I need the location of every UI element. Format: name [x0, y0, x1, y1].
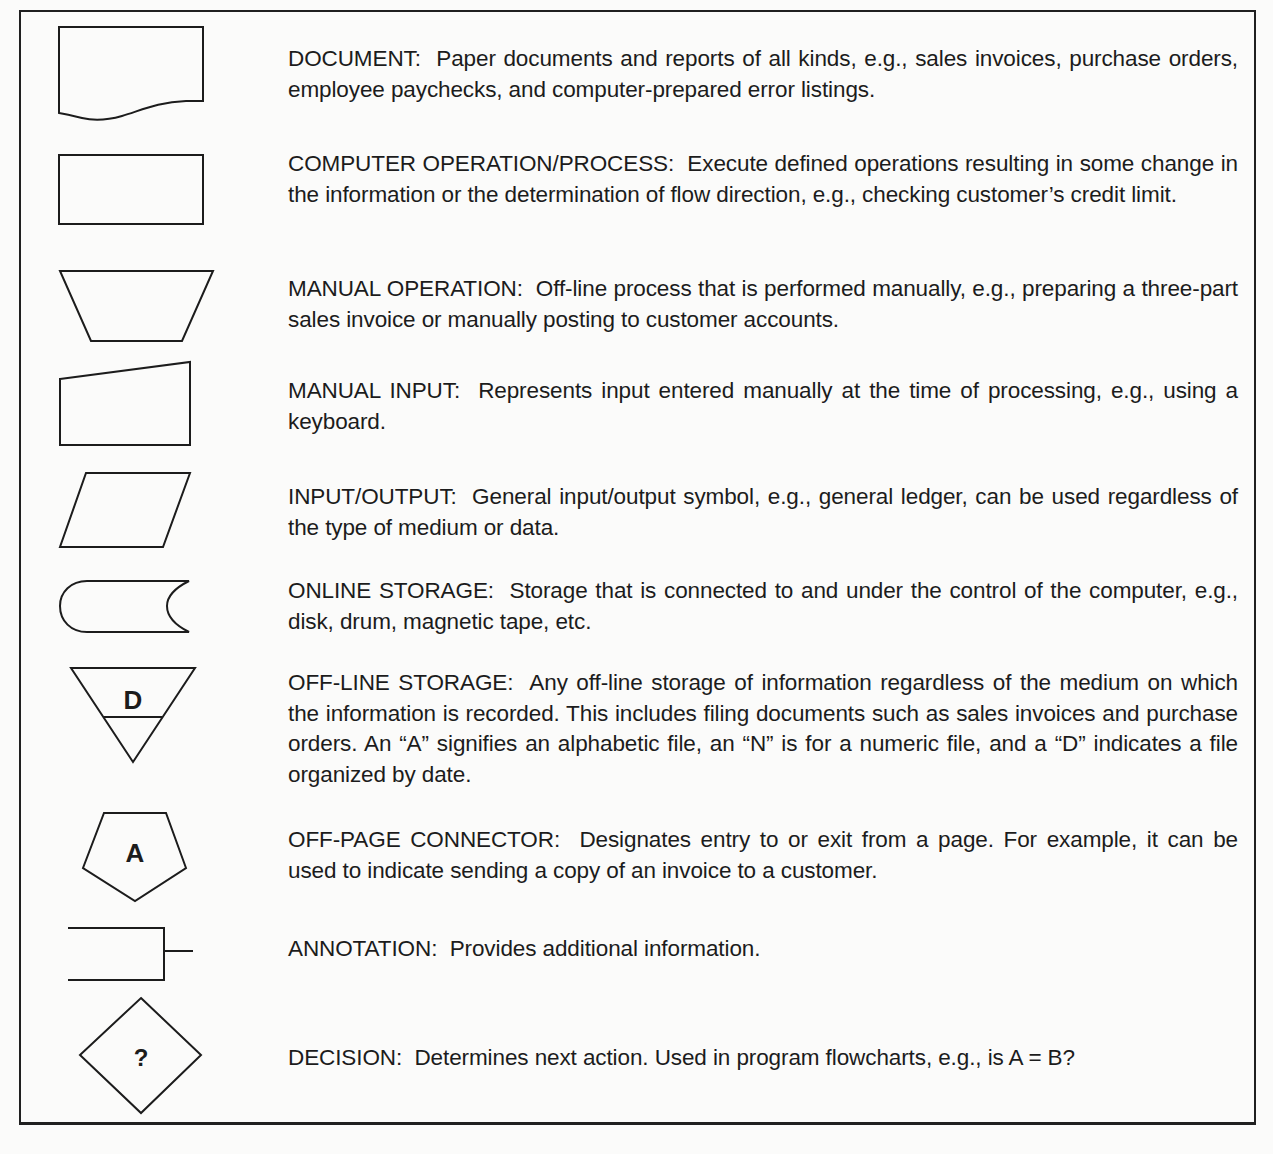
online-storage-symbol-icon [59, 580, 193, 634]
decision-symbol-icon: ? [79, 997, 203, 1115]
document-text: Paper documents and reports of all kinds… [288, 46, 1238, 102]
manual-input-term: MANUAL INPUT: [288, 378, 460, 403]
annotation-text: Provides additional information. [450, 936, 761, 961]
off-page-connector-glyph: A [126, 838, 145, 868]
offline-storage-description: OFF-LINE STORAGE: Any off-line storage o… [288, 668, 1238, 790]
manual-operation-symbol-icon [59, 270, 215, 344]
offline-storage-term: OFF-LINE STORAGE: [288, 670, 513, 695]
document-symbol-icon [58, 26, 206, 122]
manual-operation-term: MANUAL OPERATION: [288, 276, 523, 301]
document-description: DOCUMENT: Paper documents and reports of… [288, 44, 1238, 105]
offline-storage-glyph: D [124, 685, 143, 715]
decision-term: DECISION: [288, 1045, 402, 1070]
manual-input-symbol-icon [59, 361, 193, 447]
input-output-symbol-icon [59, 472, 193, 550]
input-output-term: INPUT/OUTPUT: [288, 484, 457, 509]
manual-input-description: MANUAL INPUT: Represents input entered m… [288, 376, 1238, 437]
offline-storage-symbol-icon: D [70, 667, 198, 765]
manual-operation-description: MANUAL OPERATION: Off-line process that … [288, 274, 1238, 335]
annotation-symbol-icon [67, 927, 195, 983]
off-page-connector-symbol-icon: A [82, 812, 188, 904]
online-storage-description: ONLINE STORAGE: Storage that is connecte… [288, 576, 1238, 637]
decision-text: Determines next action. Used in program … [414, 1045, 1075, 1070]
decision-description: DECISION: Determines next action. Used i… [288, 1043, 1238, 1074]
annotation-description: ANNOTATION: Provides additional informat… [288, 934, 1238, 965]
symbol-legend-frame: DOCUMENT: Paper documents and reports of… [19, 10, 1256, 1125]
process-term: COMPUTER OPERATION/PROCESS: [288, 151, 674, 176]
off-page-connector-description: OFF-PAGE CONNECTOR: Designates entry to … [288, 825, 1238, 886]
off-page-connector-term: OFF-PAGE CONNECTOR: [288, 827, 560, 852]
decision-glyph: ? [134, 1044, 149, 1071]
process-symbol-icon [58, 154, 206, 226]
online-storage-term: ONLINE STORAGE: [288, 578, 494, 603]
process-description: COMPUTER OPERATION/PROCESS: Execute defi… [288, 149, 1238, 210]
annotation-term: ANNOTATION: [288, 936, 437, 961]
input-output-description: INPUT/OUTPUT: General input/output symbo… [288, 482, 1238, 543]
document-term: DOCUMENT: [288, 46, 421, 71]
